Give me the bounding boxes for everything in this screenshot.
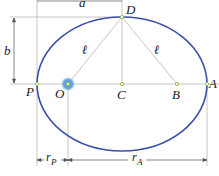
point-c-marker [120, 82, 123, 85]
guide-lines [10, 0, 219, 166]
label-point-o: O [55, 86, 65, 101]
label-point-c: C [117, 87, 126, 102]
label-point-b: B [172, 87, 180, 102]
label-point-p: P [25, 84, 34, 99]
ra-arrow-right [203, 159, 207, 162]
label-point-a: A [208, 76, 217, 91]
label-ell-right: ℓ [154, 42, 160, 57]
point-o-marker [66, 82, 69, 85]
label-ra-sub: A [136, 157, 143, 167]
label-rp-sub: P [50, 157, 57, 167]
label-b-dimension: b [4, 43, 11, 58]
point-p-marker [35, 82, 38, 85]
ra-arrow-left [68, 159, 72, 162]
label-point-d: D [125, 2, 136, 17]
orbit-diagram: a b D P O C B A ℓ ℓ r P r A [0, 0, 219, 176]
rp-arrow-left [37, 159, 41, 162]
b-arrow-top [13, 18, 16, 22]
point-d-marker [120, 15, 123, 18]
label-ell-left: ℓ [82, 42, 88, 57]
dimension-lines [13, 1, 208, 162]
label-a-dimension: a [79, 0, 86, 10]
point-b-marker [175, 82, 178, 85]
b-arrow-bottom [13, 79, 16, 83]
